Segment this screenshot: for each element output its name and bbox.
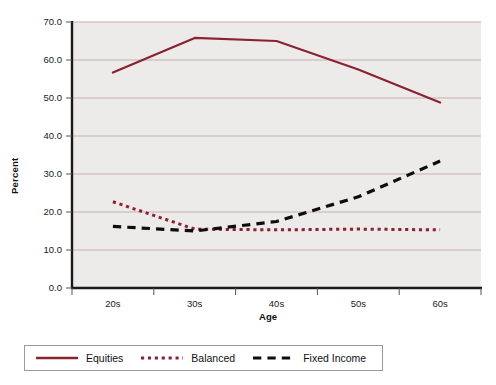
legend-label-equities: Equities xyxy=(86,352,123,364)
x-tick-label: 30s xyxy=(175,298,215,309)
legend-item-fixed-income: Fixed Income xyxy=(252,352,366,364)
plot-background xyxy=(72,22,481,288)
legend-label-fixed-income: Fixed Income xyxy=(303,352,366,364)
y-tick-label: 60.0 xyxy=(28,54,62,65)
x-tick-label: 20s xyxy=(93,298,133,309)
chart-legend: Equities Balanced Fixed Income xyxy=(24,345,383,371)
legend-item-equities: Equities xyxy=(35,352,123,364)
plot-area xyxy=(0,0,496,385)
y-tick-label: 50.0 xyxy=(28,92,62,103)
legend-swatch-balanced xyxy=(140,353,184,363)
legend-label-balanced: Balanced xyxy=(191,352,235,364)
y-tick-label: 40.0 xyxy=(28,130,62,141)
x-tick-label: 60s xyxy=(420,298,460,309)
y-tick-label: 10.0 xyxy=(28,244,62,255)
line-chart: Percent Age Equities Balanced Fixed Inco… xyxy=(0,0,496,385)
y-tick-label: 20.0 xyxy=(28,206,62,217)
y-tick-label: 70.0 xyxy=(28,16,62,27)
x-tick-label: 40s xyxy=(257,298,297,309)
y-tick-label: 30.0 xyxy=(28,168,62,179)
y-tick-label: 0.0 xyxy=(28,282,62,293)
legend-item-balanced: Balanced xyxy=(140,352,235,364)
legend-swatch-equities xyxy=(35,353,79,363)
legend-swatch-fixed-income xyxy=(252,353,296,363)
x-tick-label: 50s xyxy=(338,298,378,309)
